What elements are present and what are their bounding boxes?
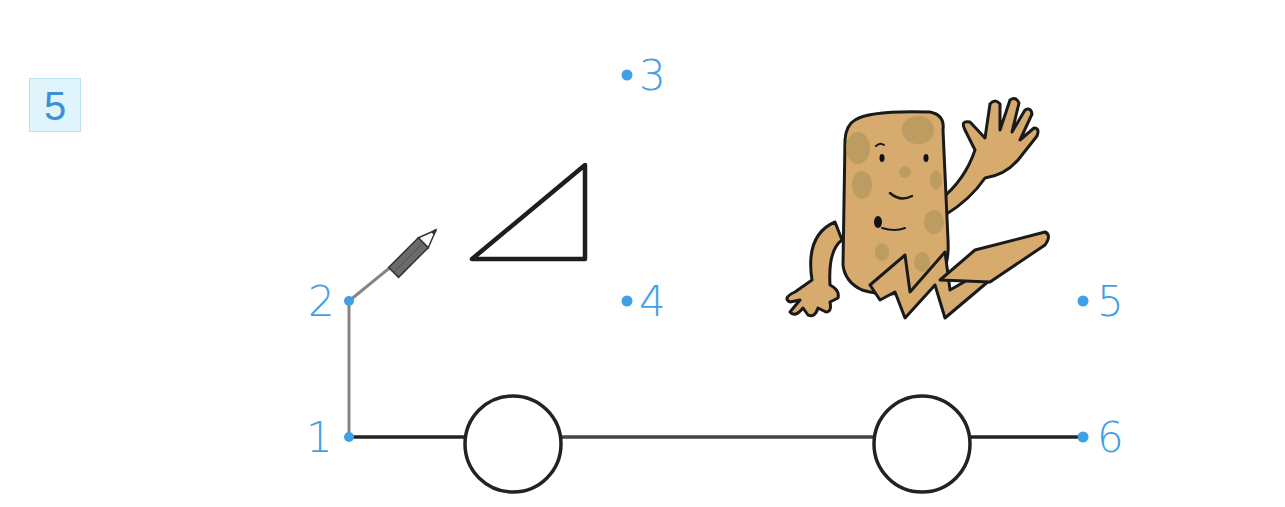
dot-2 [344,296,354,306]
dot-4 [622,296,633,307]
front-wheel [465,396,561,492]
dot-label-3: 3 [639,55,666,97]
dot-label-6: 6 [1097,417,1124,459]
dot-5 [1078,296,1089,307]
dot-1 [344,432,354,442]
dot-label-4: 4 [639,281,666,323]
traced-line [349,230,436,437]
pencil-icon [389,225,441,277]
running-potato-character [787,99,1049,318]
dot-label-1: 1 [306,417,333,459]
dot-label-5: 5 [1097,281,1124,323]
rear-wheel [874,396,970,492]
window-triangle [472,165,585,259]
dot-label-2: 2 [308,281,335,323]
dot-3 [622,70,633,81]
dot-6 [1078,432,1089,443]
